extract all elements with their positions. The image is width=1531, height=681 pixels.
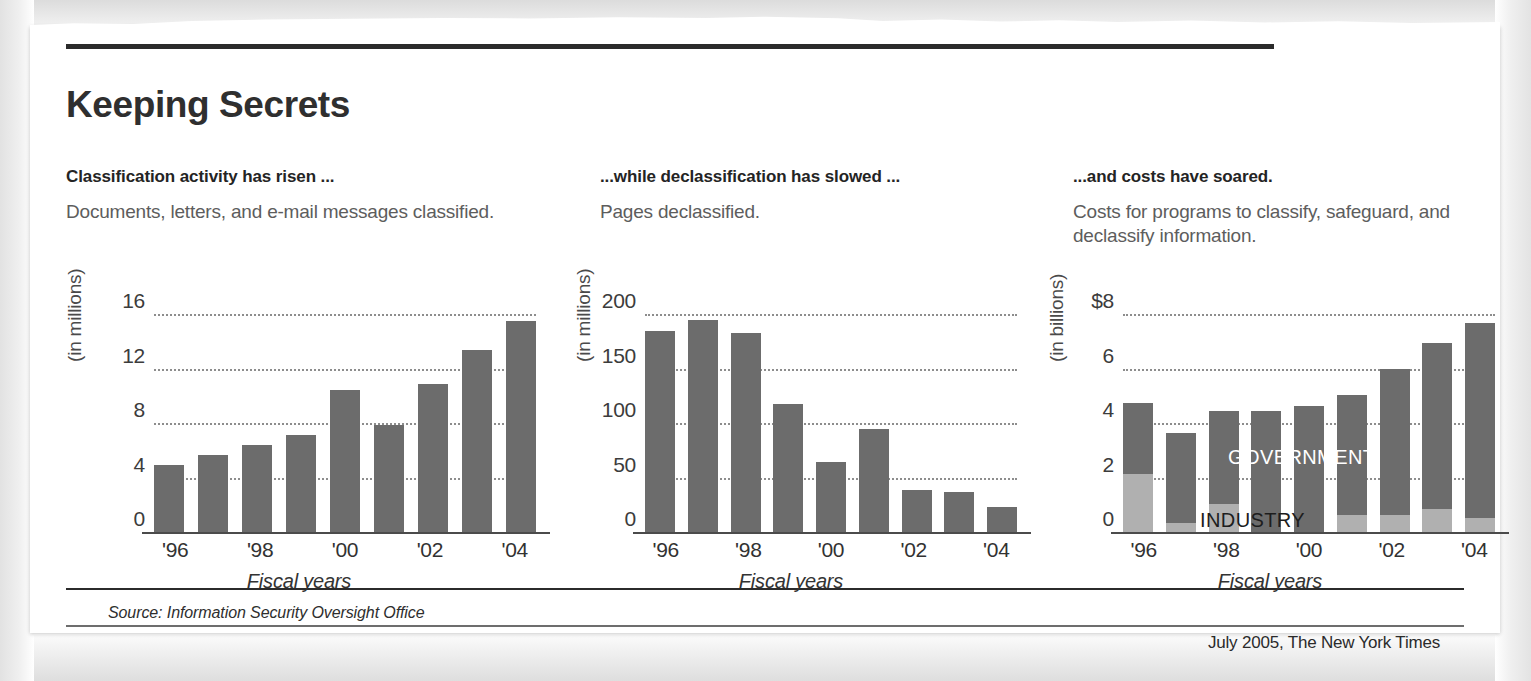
newspaper-clipping: Keeping Secrets Classification activity … — [30, 26, 1500, 633]
bar-segment-government — [1166, 433, 1196, 523]
x-axis-ticks: '96'98'00'02'04 — [154, 538, 536, 568]
y-axis-tick-label: 0 — [625, 507, 636, 534]
bar-fill — [198, 455, 228, 534]
x-axis-label: Fiscal years — [1084, 570, 1456, 593]
x-axis-tick-label: '02 — [1378, 538, 1404, 562]
bar-group — [645, 316, 1017, 534]
panel-subhead: Classification activity has risen ... — [66, 166, 586, 188]
bar[interactable] — [242, 445, 272, 534]
y-axis-tick-label: 4 — [1103, 398, 1114, 425]
credit-note: July 2005, The New York Times — [1208, 633, 1440, 653]
bar[interactable] — [154, 465, 184, 534]
bar[interactable] — [418, 384, 448, 534]
panel-classification: Classification activity has risen ... Do… — [66, 166, 586, 224]
x-axis-line — [633, 532, 1031, 534]
x-axis-tick-label: '04 — [983, 538, 1009, 562]
bar[interactable] — [1380, 369, 1410, 534]
chart-pages-declassified: (in millions) 050100150200 '96'98'00'02'… — [575, 302, 1055, 592]
bar-fill — [859, 429, 889, 534]
x-axis-line — [142, 532, 550, 534]
top-rule — [66, 44, 1274, 49]
x-axis-tick-label: '98 — [735, 538, 761, 562]
bar-fill — [944, 492, 974, 535]
y-axis-tick-label: 12 — [122, 344, 145, 371]
panel-costs: ...and costs have soared. Costs for prog… — [1073, 166, 1513, 249]
bar-fill — [154, 465, 184, 534]
bar[interactable] — [816, 462, 846, 534]
panel-description: Documents, letters, and e-mail messages … — [66, 200, 586, 225]
y-axis-tick-label: 50 — [613, 453, 636, 480]
bar-fill — [462, 350, 492, 534]
bar[interactable] — [773, 404, 803, 534]
x-axis-tick-label: '98 — [1213, 538, 1239, 562]
bar-fill — [418, 384, 448, 534]
bar-group — [154, 316, 536, 534]
bar[interactable] — [286, 435, 316, 534]
bar-fill — [731, 333, 761, 534]
y-axis-label: (in millions) — [64, 269, 86, 362]
bar[interactable] — [374, 425, 404, 534]
x-axis-tick-label: '04 — [1461, 538, 1487, 562]
bar-fill — [688, 320, 718, 534]
y-axis-tick-label: 2 — [1103, 453, 1114, 480]
y-axis-tick-label: 0 — [134, 507, 145, 534]
bar-fill — [330, 390, 360, 534]
bar-fill — [816, 462, 846, 534]
y-axis-label: (in billions) — [1046, 274, 1068, 362]
bar-segment-government — [1380, 369, 1410, 515]
bar-segment-industry — [1123, 474, 1153, 534]
bar-segment-government — [1123, 403, 1153, 474]
y-axis-tick-label: 16 — [122, 289, 145, 316]
bar[interactable] — [859, 429, 889, 534]
x-axis-tick-label: '96 — [1130, 538, 1156, 562]
panel-declassification: ...while declassification has slowed ...… — [600, 166, 1070, 224]
y-axis-tick-label: 4 — [134, 453, 145, 480]
x-axis-tick-label: '96 — [652, 538, 678, 562]
bar[interactable] — [987, 507, 1017, 534]
bar[interactable] — [330, 390, 360, 534]
bar[interactable] — [688, 320, 718, 534]
bar[interactable] — [645, 331, 675, 534]
bar-fill — [242, 445, 272, 534]
page-title: Keeping Secrets — [66, 84, 350, 126]
bar[interactable] — [902, 490, 932, 534]
bar[interactable] — [1166, 433, 1196, 534]
x-axis-tick-label: '00 — [818, 538, 844, 562]
bar[interactable] — [1465, 323, 1495, 534]
x-axis-tick-label: '00 — [332, 538, 358, 562]
x-axis-tick-label: '00 — [1296, 538, 1322, 562]
y-axis-tick-label: 150 — [602, 344, 636, 371]
bar[interactable] — [731, 333, 761, 534]
x-axis-tick-label: '96 — [162, 538, 188, 562]
bar[interactable] — [198, 455, 228, 534]
panel-description: Pages declassified. — [600, 200, 1070, 225]
y-axis-label: (in millions) — [573, 269, 595, 362]
bar-fill — [645, 331, 675, 534]
y-axis-tick-label: 100 — [602, 398, 636, 425]
legend-label-government: GOVERNMENT — [1228, 446, 1375, 469]
x-axis-ticks: '96'98'00'02'04 — [645, 538, 1017, 568]
x-axis-label: Fiscal years — [605, 570, 977, 593]
y-axis-tick-label: 6 — [1103, 344, 1114, 371]
bar[interactable] — [1123, 403, 1153, 534]
x-axis-label: Fiscal years — [108, 570, 490, 593]
bottom-rule — [66, 625, 1464, 627]
plot-area: 050100150200 — [645, 316, 1017, 534]
bar[interactable] — [1422, 343, 1452, 534]
bar-fill — [902, 490, 932, 534]
plot-area: 0481216 — [154, 316, 536, 534]
bar[interactable] — [462, 350, 492, 534]
x-axis-tick-label: '02 — [900, 538, 926, 562]
x-axis-ticks: '96'98'00'02'04 — [1123, 538, 1495, 568]
bar[interactable] — [506, 321, 536, 534]
y-axis-tick-label: 200 — [602, 289, 636, 316]
panel-description: Costs for programs to classify, safeguar… — [1073, 200, 1513, 249]
bar-fill — [286, 435, 316, 534]
x-axis-line — [1111, 532, 1509, 534]
panel-subhead: ...and costs have soared. — [1073, 166, 1513, 188]
legend-label-industry: INDUSTRY — [1200, 509, 1305, 532]
source-note: Source: Information Security Oversight O… — [108, 604, 425, 622]
scan-edge-left — [0, 0, 34, 681]
bar-fill — [506, 321, 536, 534]
bar[interactable] — [944, 492, 974, 535]
